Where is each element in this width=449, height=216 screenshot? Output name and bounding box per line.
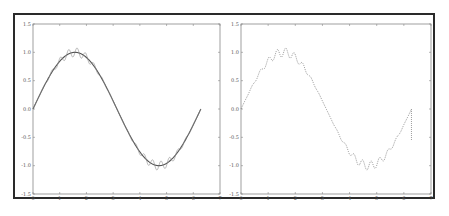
x-tick-label: 2	[294, 195, 297, 201]
y-tick-label: -0.5	[229, 134, 239, 140]
y-tick-label: -0.5	[21, 134, 31, 140]
y-tick-label: 0.0	[23, 106, 31, 112]
y-tick-label: -1.0	[21, 162, 31, 168]
x-tick-label: 7	[218, 195, 221, 201]
x-tick-label: 6	[402, 195, 405, 201]
x-tick-label: 4	[138, 195, 141, 201]
y-tick-label: -1.5	[229, 191, 239, 197]
y-tick-label: 0.5	[23, 77, 31, 83]
y-tick-label: 1.5	[23, 21, 31, 27]
chart-canvas: 01234567-1.5-1.0-0.50.00.51.01.501234567…	[0, 0, 449, 216]
x-tick-label: 4	[348, 195, 351, 201]
x-tick-label: 0	[239, 195, 242, 201]
axes-box	[241, 24, 431, 194]
x-tick-label: 2	[85, 195, 88, 201]
y-tick-label: 1.0	[231, 49, 239, 55]
y-tick-label: -1.0	[229, 162, 239, 168]
x-tick-label: 5	[375, 195, 378, 201]
plot-1: 01234567-1.5-1.0-0.50.00.51.01.5	[21, 21, 221, 201]
y-tick-label: 1.0	[23, 49, 31, 55]
plot-2: 01234567-1.5-1.0-0.50.00.51.01.5	[229, 21, 432, 201]
x-tick-label: 5	[165, 195, 168, 201]
y-tick-label: -1.5	[21, 191, 31, 197]
x-tick-label: 3	[321, 195, 324, 201]
x-tick-label: 7	[429, 195, 432, 201]
y-tick-label: 0.0	[231, 106, 239, 112]
axes-box	[33, 24, 220, 194]
series-line	[241, 48, 412, 170]
x-tick-label: 1	[267, 195, 270, 201]
x-tick-label: 1	[58, 195, 61, 201]
x-tick-label: 6	[192, 195, 195, 201]
y-tick-label: 0.5	[231, 77, 239, 83]
y-tick-label: 1.5	[231, 21, 239, 27]
x-tick-label: 3	[112, 195, 115, 201]
x-tick-label: 0	[31, 195, 34, 201]
series-line	[33, 48, 201, 170]
